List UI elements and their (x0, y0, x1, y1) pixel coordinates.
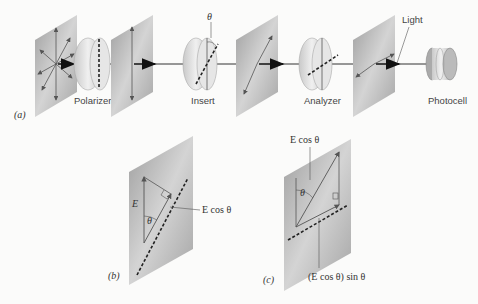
insert-theta-label: θ (207, 11, 212, 22)
E-label-b: E (131, 198, 138, 209)
theta-label-c: θ (300, 187, 305, 198)
photocell (426, 48, 457, 80)
part-c: E cos θ θ (E cos θ) sin θ (c) (263, 134, 366, 291)
E-cos-theta-sin-theta-label: (E cos θ) sin θ (308, 271, 366, 283)
analyzer-label: Analyzer (304, 95, 341, 106)
light-label: Light (402, 14, 423, 25)
diagram-canvas: Polarizer θ Insert (0, 0, 478, 304)
plate-analyzed (353, 15, 409, 117)
polarizer-lens (74, 38, 110, 90)
polarization-diagram: Polarizer θ Insert (0, 0, 478, 304)
photocell-label: Photocell (428, 95, 467, 106)
part-a-tag: (a) (14, 109, 26, 121)
plate-c (284, 139, 351, 291)
plate-rotated (236, 15, 283, 117)
plate-unpolarized (35, 15, 77, 117)
plate-vertical (111, 15, 155, 117)
part-b: E θ E cos θ (b) (108, 136, 231, 285)
insert-lens (183, 22, 218, 90)
part-b-tag: (b) (108, 270, 120, 282)
polarizer-label: Polarizer (74, 95, 112, 106)
theta-label-b: θ (147, 215, 152, 226)
plate-b (129, 136, 193, 285)
part-a: Polarizer θ Insert (14, 11, 467, 121)
part-c-tag: (c) (263, 274, 275, 286)
analyzer-lens (299, 38, 338, 90)
E-cos-theta-label-c: E cos θ (290, 134, 319, 145)
insert-label: Insert (191, 95, 215, 106)
E-cos-theta-label-b: E cos θ (202, 204, 231, 215)
